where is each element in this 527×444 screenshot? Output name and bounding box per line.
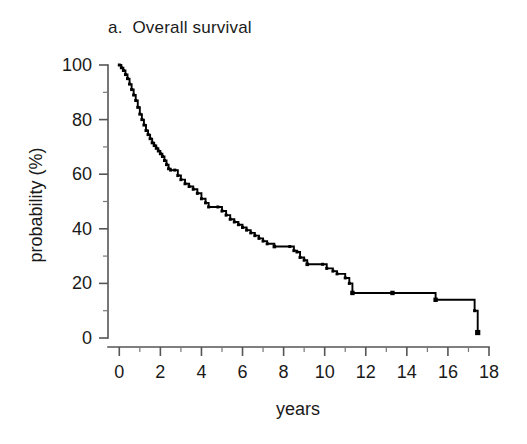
figure-panel: a. Overall survival 020406080100 0246810… <box>0 0 527 444</box>
svg-text:18: 18 <box>479 362 499 382</box>
y-axis-title: probability (%) <box>26 147 46 262</box>
censor-marks <box>118 64 481 336</box>
svg-text:0: 0 <box>82 328 92 348</box>
svg-text:14: 14 <box>397 362 417 382</box>
svg-text:4: 4 <box>196 362 206 382</box>
svg-text:16: 16 <box>438 362 458 382</box>
x-axis-tick-labels: 024681012141618 <box>114 362 499 382</box>
svg-text:100: 100 <box>62 55 92 75</box>
svg-text:8: 8 <box>279 362 289 382</box>
svg-text:20: 20 <box>72 273 92 293</box>
svg-text:6: 6 <box>238 362 248 382</box>
svg-text:0: 0 <box>114 362 124 382</box>
svg-text:60: 60 <box>72 164 92 184</box>
y-axis-tick-labels: 020406080100 <box>62 55 92 348</box>
survival-chart: 020406080100 024681012141618 years proba… <box>0 0 527 444</box>
x-axis-title: years <box>276 399 320 419</box>
svg-text:10: 10 <box>315 362 335 382</box>
svg-text:2: 2 <box>155 362 165 382</box>
svg-text:12: 12 <box>356 362 376 382</box>
svg-text:80: 80 <box>72 110 92 130</box>
y-axis-ticks <box>99 65 108 338</box>
svg-text:40: 40 <box>72 219 92 239</box>
survival-curve <box>119 65 477 333</box>
x-axis-ticks <box>119 347 489 356</box>
